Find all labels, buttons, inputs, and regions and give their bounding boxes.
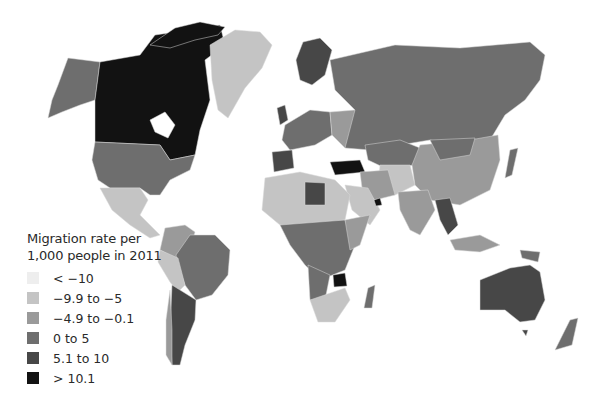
region-uk: [277, 105, 288, 125]
region-tasmania: [522, 330, 528, 336]
legend-title-line1: Migration rate per: [27, 230, 162, 247]
legend-label: 0 to 5: [53, 331, 89, 346]
legend-item: 5.1 to 10: [27, 348, 162, 368]
region-libya: [305, 182, 325, 205]
region-turkey: [330, 160, 365, 175]
legend-item: 0 to 5: [27, 328, 162, 348]
legend-label: > 10.1: [53, 371, 95, 386]
legend-item: −4.9 to −0.1: [27, 308, 162, 328]
legend-swatch: [27, 292, 39, 304]
region-argentina: [170, 285, 196, 365]
region-india: [398, 190, 435, 235]
region-new-zealand: [555, 318, 578, 350]
region-japan: [505, 148, 518, 178]
legend-item: > 10.1: [27, 368, 162, 388]
legend-swatch: [27, 312, 39, 324]
region-spain: [272, 150, 294, 172]
region-scandinavia: [296, 38, 332, 85]
legend-title-line2: 1,000 people in 2011: [27, 247, 162, 264]
legend-item: −9.9 to −5: [27, 288, 162, 308]
region-west-europe: [282, 110, 332, 150]
region-indonesia: [450, 235, 500, 252]
region-madagascar: [364, 285, 375, 308]
legend: Migration rate per 1,000 people in 2011 …: [27, 230, 162, 388]
legend-label: −9.9 to −5: [53, 291, 122, 306]
legend-swatch: [27, 372, 39, 384]
region-kazakhstan: [365, 140, 420, 168]
region-papua: [520, 250, 540, 262]
region-alaska: [48, 58, 100, 118]
legend-swatch: [27, 352, 39, 364]
region-brazil: [176, 235, 230, 300]
region-greenland: [210, 30, 272, 118]
legend-swatch: [27, 332, 39, 344]
region-russia: [330, 42, 545, 150]
legend-item: < −10: [27, 268, 162, 288]
legend-swatch: [27, 272, 39, 284]
region-australia: [480, 265, 545, 322]
region-zimbabwe: [333, 273, 347, 287]
legend-label: 5.1 to 10: [53, 351, 109, 366]
legend-label: −4.9 to −0.1: [53, 311, 134, 326]
legend-label: < −10: [53, 271, 94, 286]
legend-title: Migration rate per 1,000 people in 2011: [27, 230, 162, 264]
